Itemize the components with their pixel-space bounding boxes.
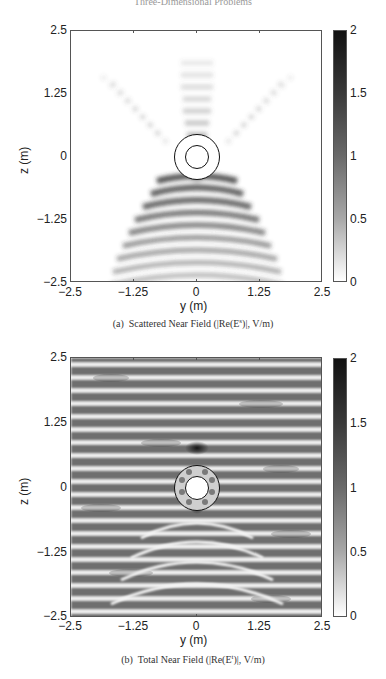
colorbar-tick: 0 [350,609,357,623]
figure-b: 2.5 1.25 0 −1.25 −2.5 z (m) −2.5 −1.25 0… [0,0,386,679]
xtick-label: 1.25 [239,619,279,633]
ytick-label: −1.25 [27,545,67,559]
heatmap-total-field [70,357,322,617]
ytick-label: 0 [27,480,67,494]
colorbar-b [333,358,347,617]
ytick-label: 2.5 [27,350,67,364]
ytick-label: 1.25 [27,415,67,429]
z-axis-label: z (m) [17,478,31,505]
xtick-label: 2.5 [302,619,342,633]
xtick-label: −2.5 [50,619,90,633]
total-field-image [71,358,322,617]
colorbar-tick: 2 [350,351,357,365]
xtick-label: 0 [176,619,216,633]
colorbar-tick: 0.5 [350,545,367,559]
y-axis-label: y (m) [180,633,207,647]
caption-b: (b) Total Near Field (|Re(Et)|, V/m) [0,653,386,665]
xtick-label: −1.25 [113,619,153,633]
colorbar-tick: 1 [350,481,357,495]
colorbar-tick: 1.5 [350,416,367,430]
